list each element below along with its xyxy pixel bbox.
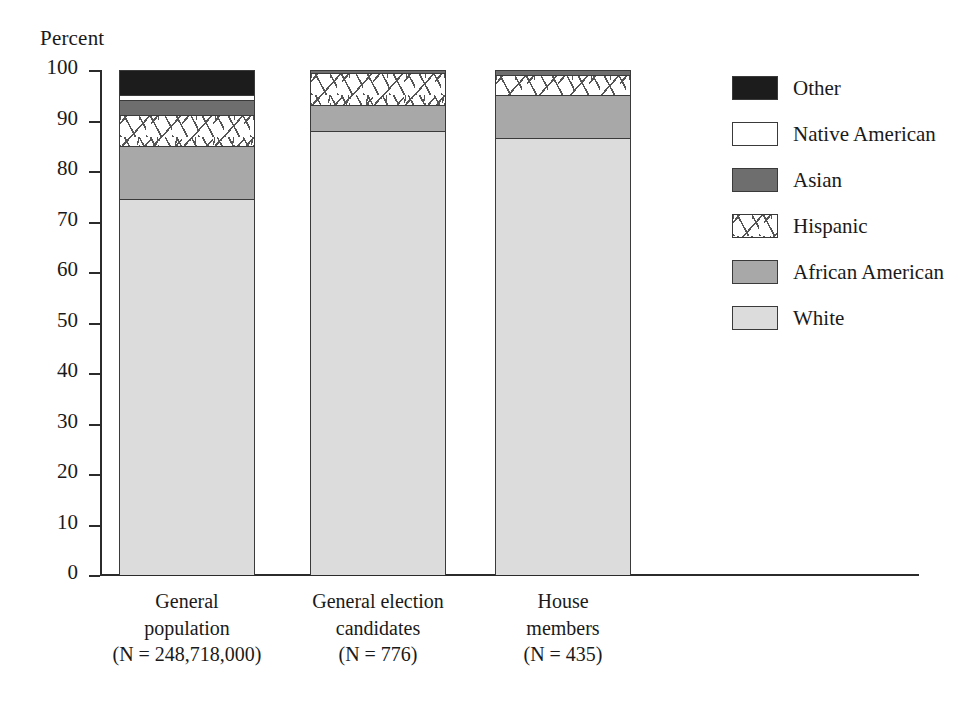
y-axis-title: Percent — [40, 26, 104, 51]
bar-segment[interactable] — [311, 131, 445, 575]
y-axis-tick-label: 0 — [18, 560, 78, 585]
african-american-swatch — [732, 260, 778, 284]
legend-item-native-american[interactable]: Native American — [732, 114, 970, 154]
legend-item-label: Native American — [793, 122, 936, 147]
bar-segment[interactable] — [120, 115, 254, 145]
asian-swatch — [732, 168, 778, 192]
y-axis-tick-label: 50 — [18, 307, 78, 332]
y-axis-tick-label: 40 — [18, 358, 78, 383]
bar-segment[interactable] — [120, 100, 254, 115]
bar-segment[interactable] — [120, 199, 254, 575]
legend-item-label: Other — [793, 76, 841, 101]
y-axis-tick-label: 90 — [18, 105, 78, 130]
legend-item-label: African American — [793, 260, 944, 285]
y-axis-tick — [89, 525, 100, 527]
y-axis-tick — [89, 121, 100, 123]
bar-segment[interactable] — [120, 70, 254, 95]
y-axis-tick-label: 80 — [18, 156, 78, 181]
bar-segment[interactable] — [496, 95, 630, 138]
y-axis-tick-label: 60 — [18, 257, 78, 282]
legend-item-other[interactable]: Other — [732, 68, 970, 108]
y-axis-tick — [89, 373, 100, 375]
y-axis-tick — [89, 171, 100, 173]
y-axis-tick — [89, 424, 100, 426]
y-axis-tick — [89, 70, 100, 72]
chart-legend: OtherNative AmericanAsianHispanicAfrican… — [732, 68, 970, 344]
y-axis-tick-label: 100 — [18, 55, 78, 80]
bar-segment[interactable] — [311, 105, 445, 130]
plot-area: 1009080706050403020100 — [100, 70, 648, 575]
stacked-bar-chart: Percent 1009080706050403020100 OtherNati… — [0, 0, 971, 713]
x-axis-label-line: House — [448, 588, 678, 615]
legend-item-white[interactable]: White — [732, 298, 970, 338]
bar-2[interactable] — [310, 70, 446, 575]
bar-segment[interactable] — [496, 138, 630, 575]
y-axis-tick — [89, 474, 100, 476]
x-axis-label-line: (N = 435) — [448, 641, 678, 668]
hispanic-swatch — [732, 214, 778, 238]
y-axis-tick-label: 70 — [18, 206, 78, 231]
bar-3[interactable] — [495, 70, 631, 575]
x-axis-category-label: Housemembers(N = 435) — [448, 588, 678, 668]
bar-segment[interactable] — [120, 146, 254, 199]
other-swatch — [732, 76, 778, 100]
legend-item-african-american[interactable]: African American — [732, 252, 970, 292]
y-axis-tick — [89, 323, 100, 325]
bar-1[interactable] — [119, 70, 255, 575]
y-axis-tick — [89, 575, 100, 577]
legend-item-label: Hispanic — [793, 214, 868, 239]
y-axis-tick — [89, 222, 100, 224]
legend-item-hispanic[interactable]: Hispanic — [732, 206, 970, 246]
legend-item-asian[interactable]: Asian — [732, 160, 970, 200]
bar-segment[interactable] — [496, 75, 630, 95]
y-axis-tick-label: 10 — [18, 509, 78, 534]
y-axis-tick — [89, 272, 100, 274]
y-axis-tick-label: 20 — [18, 459, 78, 484]
bar-segment[interactable] — [311, 73, 445, 106]
x-axis-label-line: members — [448, 615, 678, 642]
white-swatch — [732, 306, 778, 330]
native-american-swatch — [732, 122, 778, 146]
legend-item-label: White — [793, 306, 844, 331]
legend-item-label: Asian — [793, 168, 842, 193]
y-axis-tick-label: 30 — [18, 408, 78, 433]
